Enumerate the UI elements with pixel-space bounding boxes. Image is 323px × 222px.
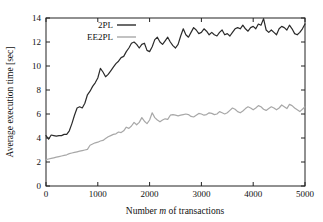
line-chart: 02468101214 010002000300040005000 Averag…	[0, 0, 323, 222]
x-axis-tick-labels: 010002000300040005000	[44, 189, 315, 199]
y-tick-label: 8	[37, 85, 42, 95]
chart-figure: 02468101214 010002000300040005000 Averag…	[0, 0, 323, 222]
y-axis-title: Average execution time [sec]	[5, 47, 15, 158]
x-tick-label: 0	[44, 189, 49, 199]
y-tick-label: 14	[32, 13, 42, 23]
legend-label-2pl: 2PL	[98, 20, 113, 30]
y-tick-label: 10	[32, 61, 42, 71]
y-tick-label: 6	[37, 109, 42, 119]
y-tick-label: 4	[37, 133, 42, 143]
y-tick-label: 12	[32, 37, 41, 47]
y-axis-tick-labels: 02468101214	[32, 13, 42, 191]
x-tick-label: 4000	[244, 189, 263, 199]
x-tick-label: 1000	[89, 189, 108, 199]
x-tick-label: 3000	[192, 189, 211, 199]
y-tick-label: 0	[37, 181, 42, 191]
x-tick-label: 5000	[296, 189, 315, 199]
x-axis-title: Number m of transactions	[126, 206, 225, 216]
legend-label-ee2pl: EE2PL	[87, 32, 113, 42]
x-tick-label: 2000	[141, 189, 160, 199]
y-tick-label: 2	[37, 157, 42, 167]
